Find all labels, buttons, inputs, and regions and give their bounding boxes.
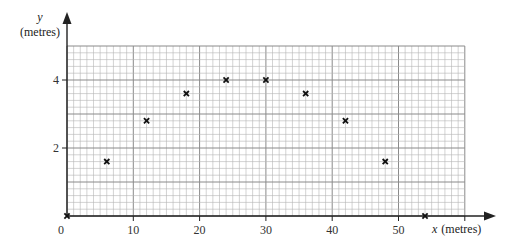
x-axis-arrow-icon xyxy=(484,212,496,221)
y-tick-label: 4 xyxy=(53,73,59,87)
x-tick-label: 10 xyxy=(127,223,139,237)
x-tick-label: 40 xyxy=(326,223,338,237)
grid xyxy=(67,46,465,216)
y-axis-var: y xyxy=(36,10,43,24)
y-axis-arrow-icon xyxy=(63,12,72,24)
x-tick-label: 20 xyxy=(194,223,206,237)
y-axis-unit: (metres) xyxy=(20,25,60,39)
x-tick-label: 50 xyxy=(393,223,405,237)
scatter-chart: 0102030405024 y (metres) x(metres) xyxy=(0,0,521,246)
x-tick-label: 30 xyxy=(260,223,272,237)
y-tick-label: 2 xyxy=(53,141,59,155)
x-axis-title: x(metres) xyxy=(431,222,481,236)
x-tick-label: 0 xyxy=(58,223,64,237)
